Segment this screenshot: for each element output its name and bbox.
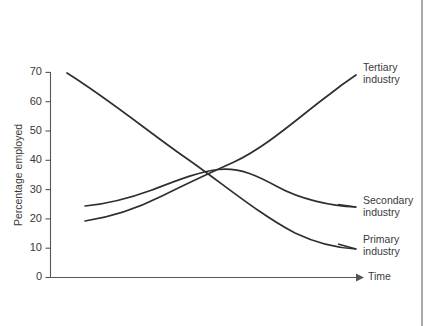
series-label-tertiary-line1: Tertiary [363,61,398,73]
series-label-tertiary-line2: industry [363,73,401,85]
x-axis-arrow-icon [356,274,364,282]
series-label-primary-line1: Primary [363,233,400,245]
x-axis-title: Time [368,270,391,282]
right-edge-divider [421,0,423,326]
series-label-secondary-line1: Secondary [363,194,414,206]
y-tick-label-70: 70 [30,65,42,77]
employment-structure-line-chart: 0 10 20 30 40 50 60 70 Percentage employ… [0,0,432,326]
y-tick-label-10: 10 [30,241,42,253]
chart-figure: 0 10 20 30 40 50 60 70 Percentage employ… [0,0,432,326]
y-axis-title: Percentage employed [12,124,24,226]
series-curve-secondary-industry [85,169,356,207]
y-tick-label-0: 0 [36,270,42,282]
y-tick-label-50: 50 [30,124,42,136]
series-curve-primary-industry [67,73,356,249]
series-label-secondary-line2: industry [363,206,401,218]
series-label-primary-line2: industry [363,245,401,257]
y-tick-label-30: 30 [30,183,42,195]
y-tick-label-40: 40 [30,153,42,165]
y-tick-label-60: 60 [30,95,42,107]
y-tick-label-20: 20 [30,212,42,224]
